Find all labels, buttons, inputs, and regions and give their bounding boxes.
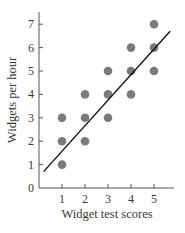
data-point (104, 114, 113, 123)
y-tick-label: 2 (28, 134, 34, 148)
data-point (127, 90, 136, 99)
regression-line (44, 31, 171, 171)
x-axis-label: Widget test scores (61, 207, 152, 221)
y-tick-label: 7 (28, 17, 34, 31)
data-point (58, 114, 67, 123)
x-tick-label: 1 (59, 192, 65, 206)
data-point (58, 160, 67, 169)
data-point (127, 43, 136, 52)
y-tick-label: 1 (28, 158, 34, 172)
data-point (104, 67, 113, 76)
data-point (150, 20, 159, 29)
x-tick-label: 4 (128, 192, 134, 206)
trend-line (44, 31, 171, 171)
data-point (81, 114, 90, 123)
scatter-chart: 1234501234567 Widget test scores Widgets… (0, 0, 185, 233)
data-point (150, 67, 159, 76)
x-tick-label: 3 (105, 192, 111, 206)
y-tick-label: 0 (28, 181, 34, 195)
data-point (58, 137, 67, 146)
data-points (58, 20, 159, 169)
data-point (81, 137, 90, 146)
y-tick-label: 4 (28, 87, 34, 101)
y-tick-label: 3 (28, 111, 34, 125)
ticks: 1234501234567 (28, 17, 157, 206)
x-tick-label: 2 (82, 192, 88, 206)
y-axis-label: Widgets per hour (5, 56, 19, 143)
y-tick-label: 5 (28, 64, 34, 78)
x-tick-label: 5 (151, 192, 157, 206)
y-tick-label: 6 (28, 41, 34, 55)
data-point (150, 43, 159, 52)
data-point (81, 90, 90, 99)
